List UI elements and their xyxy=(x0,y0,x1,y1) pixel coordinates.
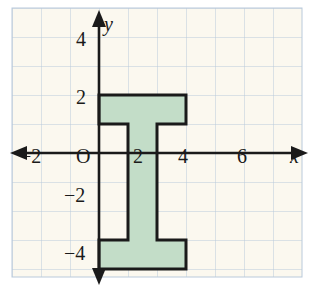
x-tick-label-neg2: −2 xyxy=(20,146,41,166)
x-tick-label-6: 6 xyxy=(237,146,247,166)
figure-canvas: −2 O 2 4 6 x 4 2 −2 −4 y xyxy=(0,0,318,291)
y-tick-label-neg2: −2 xyxy=(64,185,85,205)
origin-label: O xyxy=(76,146,90,166)
y-tick-label-4: 4 xyxy=(76,29,86,49)
x-tick-label-2: 2 xyxy=(133,146,143,166)
x-axis-name: x xyxy=(290,146,299,166)
x-tick-label-4: 4 xyxy=(178,146,188,166)
coordinate-plane xyxy=(0,0,318,291)
y-axis-name: y xyxy=(104,14,113,34)
y-tick-label-neg4: −4 xyxy=(64,243,85,263)
y-tick-label-2: 2 xyxy=(76,87,86,107)
